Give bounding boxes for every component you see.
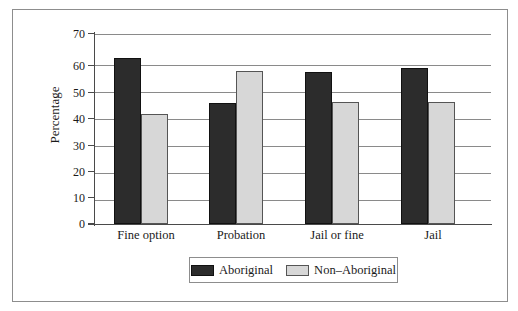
figure: 70 60 50 40 30 20 10 0 Percentage <box>0 0 518 311</box>
legend-swatch-icon <box>286 265 309 276</box>
gridline <box>95 65 491 66</box>
gridline <box>95 34 491 35</box>
x-axis-category-label: Jail <box>373 228 493 243</box>
legend: Aboriginal Non–Aboriginal <box>189 257 398 283</box>
legend-swatch-icon <box>191 265 214 276</box>
plot-area <box>95 34 491 224</box>
legend-entry-aboriginal[interactable]: Aboriginal <box>191 263 273 278</box>
bar-non-aboriginal-jail-or-fine[interactable] <box>332 102 359 224</box>
bar-non-aboriginal-probation[interactable] <box>236 71 263 224</box>
bar-non-aboriginal-jail[interactable] <box>428 102 455 224</box>
bar-non-aboriginal-fine-option[interactable] <box>141 114 168 224</box>
bar-aboriginal-fine-option[interactable] <box>114 58 141 224</box>
legend-label: Non–Aboriginal <box>314 263 396 278</box>
y-tick-label: 0 <box>25 218 85 230</box>
chart-frame: 70 60 50 40 30 20 10 0 Percentage <box>12 9 508 302</box>
y-axis-title: Percentage <box>47 60 63 170</box>
y-tick-label: 70 <box>25 28 85 40</box>
gridline <box>95 92 491 93</box>
y-tick-label: 10 <box>25 192 85 204</box>
x-axis-line <box>88 224 492 225</box>
bar-aboriginal-probation[interactable] <box>209 103 236 224</box>
legend-entry-non-aboriginal[interactable]: Non–Aboriginal <box>286 263 396 278</box>
bar-aboriginal-jail-or-fine[interactable] <box>305 72 332 224</box>
legend-label: Aboriginal <box>219 263 273 278</box>
bar-aboriginal-jail[interactable] <box>401 68 428 224</box>
